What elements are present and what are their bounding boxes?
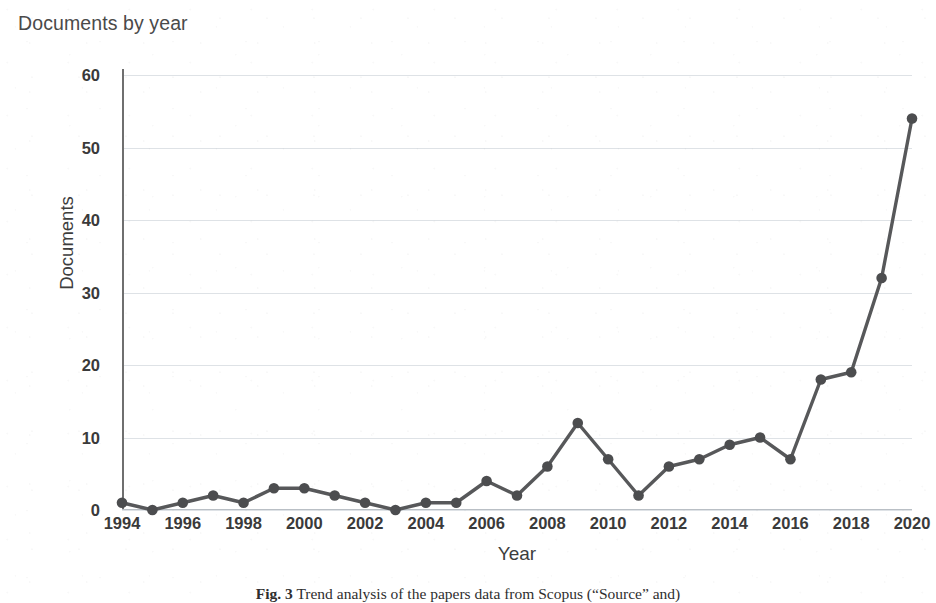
caption-text: Trend analysis of the papers data from S… bbox=[296, 585, 680, 602]
data-point-1996 bbox=[177, 497, 188, 508]
data-point-2008 bbox=[542, 461, 553, 472]
data-point-2004 bbox=[421, 497, 432, 508]
y-tick-50: 50 bbox=[40, 138, 100, 157]
x-tick-2010: 2010 bbox=[590, 514, 627, 533]
x-tick-1998: 1998 bbox=[225, 514, 262, 533]
data-point-1994 bbox=[117, 497, 128, 508]
x-tick-2014: 2014 bbox=[711, 514, 748, 533]
data-point-2001 bbox=[329, 490, 340, 501]
x-tick-2002: 2002 bbox=[347, 514, 384, 533]
data-point-2002 bbox=[360, 497, 371, 508]
documents-line-series bbox=[122, 75, 912, 510]
figure-container: Documents by year Documents 010203040506… bbox=[0, 0, 936, 603]
y-tick-10: 10 bbox=[40, 428, 100, 447]
gridline-0 bbox=[122, 510, 912, 511]
x-tick-2008: 2008 bbox=[529, 514, 566, 533]
series-line bbox=[122, 119, 912, 511]
data-point-2011 bbox=[633, 490, 644, 501]
x-tick-2020: 2020 bbox=[894, 514, 931, 533]
data-point-1999 bbox=[269, 483, 280, 494]
x-tick-2018: 2018 bbox=[833, 514, 870, 533]
caption-label: Fig. 3 bbox=[256, 585, 293, 602]
data-point-2010 bbox=[603, 454, 614, 465]
data-point-2019 bbox=[876, 273, 887, 284]
data-point-2017 bbox=[816, 374, 827, 385]
data-point-1997 bbox=[208, 490, 219, 501]
plot-area bbox=[122, 75, 912, 510]
data-point-2018 bbox=[846, 367, 857, 378]
data-point-2006 bbox=[481, 476, 492, 487]
figure-caption: Fig. 3 Trend analysis of the papers data… bbox=[0, 585, 936, 603]
x-axis-title: Year bbox=[122, 543, 912, 565]
x-tick-2016: 2016 bbox=[772, 514, 809, 533]
x-tick-1996: 1996 bbox=[164, 514, 201, 533]
x-tick-1994: 1994 bbox=[104, 514, 141, 533]
data-point-2005 bbox=[451, 497, 462, 508]
data-point-2020 bbox=[907, 113, 918, 124]
data-point-1998 bbox=[238, 497, 249, 508]
data-point-2015 bbox=[755, 432, 766, 443]
x-axis-tick-labels: 1994199619982000200220042006200820102012… bbox=[122, 514, 912, 540]
data-point-2013 bbox=[694, 454, 705, 465]
y-tick-60: 60 bbox=[40, 66, 100, 85]
x-tick-2000: 2000 bbox=[286, 514, 323, 533]
data-point-2014 bbox=[724, 439, 735, 450]
x-tick-2012: 2012 bbox=[651, 514, 688, 533]
x-tick-2004: 2004 bbox=[407, 514, 444, 533]
data-point-2007 bbox=[512, 490, 523, 501]
y-tick-20: 20 bbox=[40, 356, 100, 375]
data-point-2009 bbox=[572, 418, 583, 429]
data-point-2016 bbox=[785, 454, 796, 465]
y-tick-40: 40 bbox=[40, 211, 100, 230]
y-tick-30: 30 bbox=[40, 283, 100, 302]
y-tick-0: 0 bbox=[40, 501, 100, 520]
data-point-2000 bbox=[299, 483, 310, 494]
chart-title: Documents by year bbox=[18, 12, 188, 35]
y-axis-tick-labels: 0102030405060 bbox=[0, 75, 108, 510]
data-point-2012 bbox=[664, 461, 675, 472]
x-tick-2006: 2006 bbox=[468, 514, 505, 533]
